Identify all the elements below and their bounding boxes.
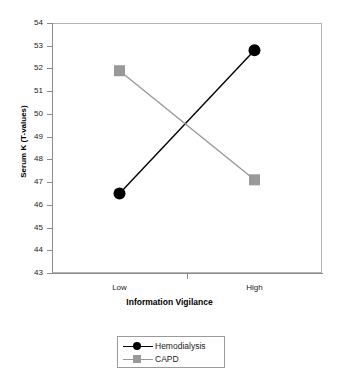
y-tick-label: 54 [15,19,43,27]
y-tick-label: 53 [15,42,43,50]
y-tick-mark [47,68,52,69]
y-tick-mark [47,159,52,160]
y-tick-label: 45 [15,224,43,232]
legend-marker-square-icon [123,353,153,365]
y-tick-mark [47,23,52,24]
y-tick-label: 43 [15,269,43,277]
x-tick-label: Low [90,283,150,292]
y-tick-mark [47,250,52,251]
legend-label-capd: CAPD [153,355,179,364]
y-axis-title: Serum K (T-values) [19,72,28,212]
y-tick-mark [47,137,52,138]
plot-area [52,23,322,273]
x-axis-title: Information Vigilance [0,297,339,307]
x-tick-label: High [225,283,285,292]
legend-item-capd: CAPD [123,352,179,366]
y-axis-line [52,23,53,274]
y-tick-mark [47,91,52,92]
y-tick-mark [47,182,52,183]
x-tick-mark [187,274,188,279]
y-tick-mark [47,114,52,115]
chart-legend: Hemodialysis CAPD [117,336,225,368]
y-tick-mark [47,228,52,229]
legend-marker-circle-icon [123,340,153,352]
legend-item-hemodialysis: Hemodialysis [123,339,206,353]
y-tick-label: 44 [15,246,43,254]
y-tick-mark [47,46,52,47]
y-tick-mark [47,205,52,206]
legend-label-hemodialysis: Hemodialysis [153,342,206,351]
chart-figure: 434445464748495051525354 Serum K (T-valu… [0,0,339,380]
